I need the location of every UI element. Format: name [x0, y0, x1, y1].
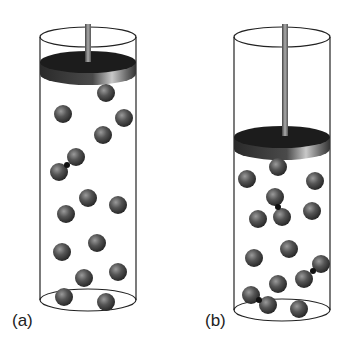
molecules-b [238, 158, 330, 318]
cylinder-a [40, 24, 136, 311]
panel-b-label: (b) [205, 311, 226, 331]
cylinder-b [234, 24, 330, 321]
cylinder-a-bottom [40, 289, 136, 311]
molecules-a [50, 84, 133, 311]
panel-a-label: (a) [12, 311, 33, 331]
piston-a-rod [85, 24, 91, 62]
piston-b-rod [282, 24, 288, 136]
gas-compression-diagram [0, 0, 348, 350]
piston-a [40, 24, 136, 85]
